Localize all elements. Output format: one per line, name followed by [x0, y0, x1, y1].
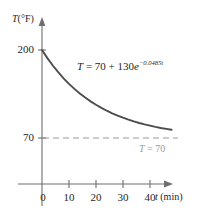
- y-axis-title: T(°F): [12, 13, 34, 24]
- x-axis-variable: t: [155, 191, 158, 202]
- asymptote-label: T = 70: [139, 143, 165, 154]
- x-tick-label-30: 30: [112, 191, 134, 203]
- curve-equation-label: T = 70 + 130e−0.0485t: [77, 60, 163, 72]
- x-axis-unit: (min): [160, 191, 182, 202]
- x-origin-label: 0: [32, 191, 54, 203]
- y-tick-label-70: 70: [6, 131, 34, 143]
- curve-equation-exponent: −0.0485t: [139, 59, 163, 66]
- x-tick-label-10: 10: [58, 191, 80, 203]
- plot-canvas: [0, 0, 197, 219]
- curve-equation-body: = 70 + 130: [83, 60, 134, 72]
- temperature-decay-figure: T(°F) 200 70 0 10 20 30 40 t (min) T = 7…: [0, 0, 197, 219]
- x-tick-label-20: 20: [85, 191, 107, 203]
- asymptote-body: = 70: [145, 143, 166, 154]
- x-axis-title: t (min): [155, 191, 183, 202]
- x-axis-arrowhead: [164, 181, 173, 188]
- y-axis-arrowhead: [39, 17, 46, 26]
- y-tick-label-200: 200: [6, 43, 34, 55]
- y-axis-unit: (°F): [18, 13, 34, 24]
